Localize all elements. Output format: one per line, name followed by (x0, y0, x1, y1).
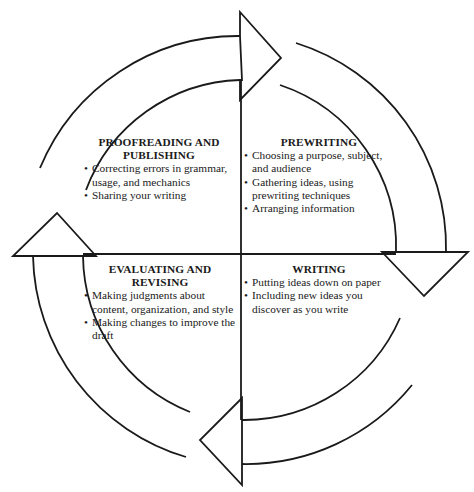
list-item: Including new ideas you discover as you … (244, 289, 394, 315)
quadrant-writing: WRITING Putting ideas down on paper Incl… (244, 263, 394, 316)
list-item: Making judgments about content, organiza… (84, 289, 236, 315)
arrow-right-icon (240, 12, 281, 100)
item-list: Choosing a purpose, subject, and audienc… (244, 149, 394, 215)
quadrant-prewriting: PREWRITING Choosing a purpose, subject, … (244, 136, 394, 215)
arrow-up-icon (13, 213, 96, 256)
quadrant-title: EVALUATING AND REVISING (84, 263, 236, 289)
list-item: Correcting errors in grammar, usage, and… (84, 162, 234, 188)
list-item: Arranging information (244, 202, 394, 215)
arrow-down-icon (382, 252, 468, 296)
quadrant-title: WRITING (244, 263, 394, 276)
list-item: Making changes to improve the draft (84, 316, 236, 342)
list-item: Sharing your writing (84, 189, 234, 202)
quadrant-evaluating-revising: EVALUATING AND REVISING Making judgments… (84, 263, 236, 342)
list-item: Gathering ideas, using prewriting techni… (244, 176, 394, 202)
item-list: Putting ideas down on paper Including ne… (244, 276, 394, 316)
arrow-left-icon (200, 398, 242, 485)
item-list: Correcting errors in grammar, usage, and… (84, 162, 234, 202)
item-list: Making judgments about content, organiza… (84, 289, 236, 342)
quadrant-title: PROOFREADING AND PUBLISHING (84, 136, 234, 162)
quadrant-title: PREWRITING (244, 136, 394, 149)
cycle-ring (0, 0, 474, 492)
inner-ring-arc-bottom-right (242, 318, 400, 420)
outer-ring-arc-bottom-right (242, 385, 412, 464)
quadrant-proofreading-publishing: PROOFREADING AND PUBLISHING Correcting e… (84, 136, 234, 202)
list-item: Putting ideas down on paper (244, 276, 394, 289)
list-item: Choosing a purpose, subject, and audienc… (244, 149, 394, 175)
